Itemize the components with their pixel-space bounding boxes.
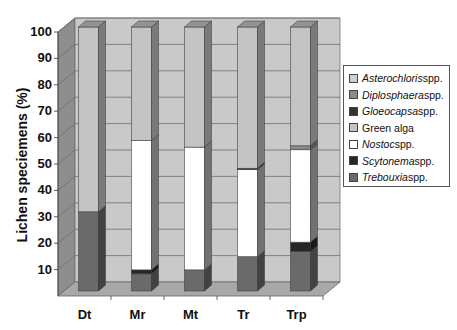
x-tick-label: Trp	[286, 307, 306, 322]
legend-item-gloeocapsa: Gloeocapsa spp.	[349, 103, 449, 120]
legend-label: Trebouxia	[362, 171, 408, 183]
legend-item-nostoc: Nostoc spp.	[349, 136, 449, 153]
y-axis-title: Lichen speciemens (%)	[14, 88, 30, 243]
x-tick-label: Mt	[183, 307, 199, 322]
bar-tr	[238, 21, 265, 291]
bar-segment-scytonema	[291, 242, 311, 251]
legend-swatch-icon	[349, 107, 358, 116]
legend-suffix: spp.	[408, 171, 428, 183]
legend-swatch-icon	[349, 74, 358, 83]
y-tick-label: 60	[38, 130, 52, 145]
legend-suffix: spp.	[423, 72, 443, 84]
bar-mr	[132, 21, 159, 291]
legend-label: Nostoc	[362, 138, 395, 150]
legend-label: Asterochloris	[362, 72, 423, 84]
bar-segment-nostoc	[132, 141, 152, 270]
legend-swatch-icon	[349, 140, 358, 149]
bar-dt	[79, 21, 106, 291]
legend-item-green-alga: Green alga	[349, 120, 449, 137]
bar-mt	[185, 21, 212, 291]
legend-item-trebouxia: Trebouxia spp.	[349, 169, 449, 186]
bar-segment-diplosphaera	[291, 146, 311, 150]
legend-suffix: spp.	[418, 105, 438, 117]
y-tick-label: 30	[38, 209, 52, 224]
legend-suffix: spp.	[395, 138, 415, 150]
bar-segment-scytonema	[132, 270, 152, 274]
bar-segment-green-alga	[291, 27, 311, 146]
bar-segment-green-alga	[132, 27, 152, 141]
bar-segment-green-alga	[238, 27, 258, 168]
bar-segment-nostoc	[291, 150, 311, 242]
x-axis: DtMrMtTrTrp	[78, 296, 323, 322]
bar-segment-nostoc	[185, 147, 205, 270]
legend-suffix: spp.	[424, 89, 444, 101]
x-tick-label: Tr	[237, 307, 249, 322]
y-tick-label: 40	[38, 182, 52, 197]
legend-label: Diplosphaera	[362, 89, 424, 101]
legend-item-asterochloris: Asterochloris spp.	[349, 70, 449, 87]
legend-label: Green alga	[362, 122, 414, 134]
legend-label: Scytonema	[362, 155, 415, 167]
legend-swatch-icon	[349, 123, 358, 132]
bar-segment-trebouxia	[291, 251, 311, 291]
y-tick-label: 10	[38, 262, 52, 277]
bar-segment-trebouxia	[185, 270, 205, 291]
legend-swatch-icon	[349, 90, 358, 99]
y-tick-label: 20	[38, 235, 52, 250]
legend-swatch-icon	[349, 156, 358, 165]
bar-segment-green-alga	[79, 27, 99, 212]
legend-item-scytonema: Scytonema spp.	[349, 153, 449, 170]
y-tick-label: 100	[30, 24, 52, 39]
y-axis: 102030405060708090100	[30, 24, 58, 296]
legend-item-diplosphaera: Diplosphaera spp.	[349, 87, 449, 104]
bar-segment-green-alga	[185, 27, 205, 147]
bar-segment-nostoc	[238, 170, 258, 257]
y-tick-label: 90	[38, 50, 52, 65]
legend: Asterochloris spp.Diplosphaera spp.Gloeo…	[343, 65, 450, 187]
bar-segment-trebouxia	[79, 212, 99, 291]
bar-trp	[291, 21, 318, 291]
legend-swatch-icon	[349, 173, 358, 182]
x-tick-label: Dt	[78, 307, 92, 322]
y-tick-label: 80	[38, 77, 52, 92]
bar-segment-trebouxia	[238, 257, 258, 291]
legend-label: Gloeocapsa	[362, 105, 418, 117]
bar-segment-trebouxia	[132, 274, 152, 291]
y-tick-label: 50	[38, 156, 52, 171]
legend-suffix: spp.	[415, 155, 435, 167]
x-tick-label: Mr	[130, 307, 146, 322]
y-tick-label: 70	[38, 103, 52, 118]
